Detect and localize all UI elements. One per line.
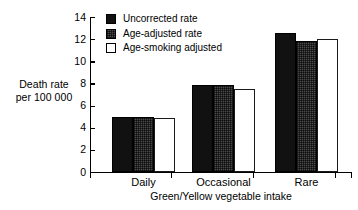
x-axis-label: Green/Yellow vegetable intake (90, 190, 352, 202)
bar (192, 85, 213, 172)
bar (112, 117, 133, 172)
legend-swatch-icon (106, 43, 116, 53)
y-tick-mark (90, 128, 96, 129)
y-tick-mark (90, 150, 96, 151)
bar (234, 89, 255, 172)
y-tick-mark (90, 106, 96, 107)
category-label-occasional: Occasional (178, 176, 269, 189)
legend-item: Age-adjusted rate (106, 27, 242, 42)
legend-label: Age-adjusted rate (123, 28, 202, 40)
bar (296, 41, 317, 172)
y-tick-label: 8 (64, 77, 86, 89)
y-tick-label: 14 (64, 11, 86, 23)
y-tick-mark (90, 61, 96, 62)
legend-label: Uncorrected rate (123, 13, 197, 25)
y-tick-label: 12 (64, 33, 86, 45)
legend-item: Age-smoking adjusted (106, 41, 242, 56)
bar-chart-figure: Death rate per 100 000 02468101214 Daily… (0, 0, 358, 210)
x-axis-tick (90, 172, 91, 178)
x-axis-line (90, 172, 352, 173)
y-tick-label: 2 (64, 143, 86, 155)
legend-swatch-icon (106, 29, 116, 39)
y-tick-label: 10 (64, 55, 86, 67)
y-tick-mark (90, 83, 96, 84)
y-tick-label: 6 (64, 99, 86, 111)
bar (275, 33, 296, 173)
legend-label: Age-smoking adjusted (123, 42, 222, 54)
legend-item: Uncorrected rate (106, 12, 242, 27)
y-tick-label: 4 (64, 121, 86, 133)
category-label-rare: Rare (261, 176, 352, 189)
bar (213, 85, 234, 172)
y-tick-mark (90, 39, 96, 40)
category-label-daily: Daily (98, 176, 189, 189)
bar (317, 39, 338, 172)
legend-swatch-icon (106, 14, 116, 24)
bar (154, 118, 175, 172)
bar (133, 117, 154, 172)
chart-legend: Uncorrected rateAge-adjusted rateAge-smo… (106, 12, 242, 56)
y-tick-label: 0 (64, 166, 86, 178)
y-tick-mark (90, 17, 96, 18)
